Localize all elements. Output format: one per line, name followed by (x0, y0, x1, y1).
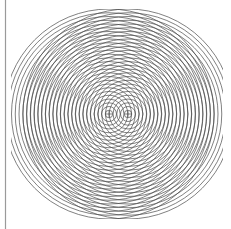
figure-canvas: Two-source concentric circle interferenc… (0, 0, 231, 229)
interference-pattern-svg (0, 0, 231, 229)
